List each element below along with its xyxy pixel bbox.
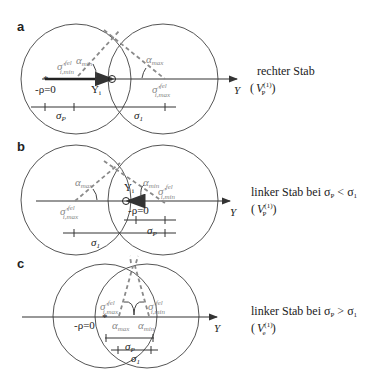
- sigma-min-label: σ'feli,min: [57, 59, 74, 76]
- sigma-p-label: σP: [56, 109, 66, 123]
- sigma-max-label: σ'feli,max: [100, 299, 119, 316]
- sigma-1-label: σ1: [131, 352, 140, 366]
- origin-label: -ρ=0: [35, 83, 56, 95]
- caption-line2: (V(1)P): [250, 81, 275, 97]
- axis-label: Y: [214, 322, 222, 334]
- caption-line2: (V(1)P): [251, 202, 276, 218]
- axis-label: Y: [234, 84, 242, 96]
- sigma-min-label: σ'feli,min: [158, 183, 175, 201]
- dashed-line-min: [78, 30, 120, 76]
- caption-line1: linker Stab bei σP < σ1: [251, 185, 358, 200]
- sigma-max-label: σ'feli,max: [60, 204, 79, 221]
- alpha-max-label: αmax: [146, 53, 164, 67]
- panel-letter: c: [17, 256, 24, 271]
- dashed-tip: [136, 256, 138, 263]
- panel-c: c * αmax αmin σ'feli,max σ'feli,min -ρ=0…: [17, 256, 358, 368]
- angle-arc-min: [134, 302, 144, 315]
- sigma-1-label: σ1: [91, 236, 100, 250]
- alpha-max-label: αmax: [112, 319, 130, 333]
- alpha-min-label: αmin: [138, 319, 155, 333]
- origin-label: -ρ=0: [74, 319, 95, 331]
- angle-arc-max: [124, 302, 134, 315]
- sigma-min-label: σ'feli,min: [148, 299, 165, 316]
- panel-letter: b: [17, 139, 25, 154]
- sigma-max-label: σ'feli,max: [152, 82, 171, 99]
- dashed-line-min: [135, 266, 149, 316]
- dashed-tip: [130, 256, 131, 263]
- panel-letter: a: [17, 19, 25, 34]
- right-circle: [95, 264, 199, 368]
- caption-line2: (V(1)e): [251, 321, 276, 337]
- sigma-1-label: σ1: [134, 109, 143, 123]
- alpha-max-label: αmax: [75, 176, 93, 190]
- point-yi-label: Yi: [91, 83, 101, 97]
- angle-arc-max: [93, 189, 97, 200]
- diagram-canvas: a * αmin αmax σ'feli,min σ'feli,max -ρ=0…: [0, 0, 368, 386]
- axis-label: Y: [230, 206, 238, 218]
- sigma-p-label: σP: [147, 224, 157, 238]
- angle-arc-min: [93, 64, 96, 77]
- dashed-line-max: [119, 266, 133, 316]
- panel-a: a * αmin αmax σ'feli,min σ'feli,max -ρ=0…: [17, 19, 315, 134]
- origin-label: -ρ=0: [128, 204, 149, 216]
- alpha-min-label: αmin: [76, 54, 93, 68]
- angle-arc-max: [142, 68, 146, 78]
- point-yi-label: Yi: [124, 181, 134, 195]
- caption-line1: linker Stab bei σP > σ1: [251, 304, 358, 319]
- caption-line1: rechter Stab: [257, 64, 315, 78]
- panel-b: b αmax αmin σ'feli,min σ'feli,max Yi -ρ=…: [17, 139, 358, 255]
